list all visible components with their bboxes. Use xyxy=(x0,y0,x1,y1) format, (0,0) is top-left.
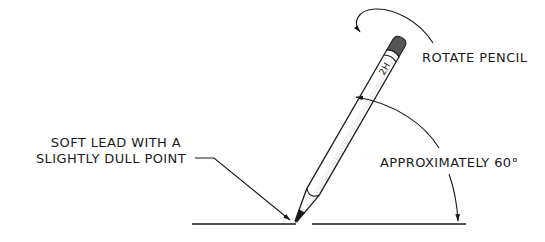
rotate-pencil-label: ROTATE PENCIL xyxy=(422,50,528,65)
pencil-cone xyxy=(290,188,319,224)
eraser xyxy=(387,34,408,57)
lead-leader-line xyxy=(195,158,290,220)
pencil-illustration: 2H xyxy=(289,34,408,226)
angle-label: APPROXIMATELY 60° xyxy=(380,155,518,170)
lead-callout-line1: SOFT LEAD WITH A xyxy=(51,135,181,150)
lead-tip xyxy=(292,209,305,225)
angle-dimension-arc-lower xyxy=(449,174,458,221)
pencil-technique-diagram: 2H ROTATE PENCIL APPROXIMATELY 60° SOFT … xyxy=(0,0,545,242)
lead-callout-line2: SLIGHTLY DULL POINT xyxy=(36,151,186,166)
